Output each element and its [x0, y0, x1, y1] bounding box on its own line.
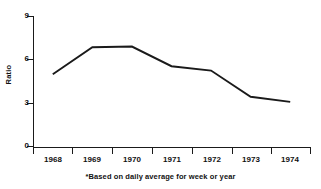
x-tick-mark-4	[192, 148, 193, 154]
x-tick-label-1971: 1971	[152, 156, 192, 164]
x-tick-mark-0	[33, 148, 34, 154]
x-tick-label-1968: 1968	[33, 156, 73, 164]
line-chart: Ratio 9 6 3 0 1968 1969 1970 1971 1972 1…	[0, 0, 321, 189]
x-tick-mark-1	[72, 148, 73, 154]
data-series-line	[53, 47, 290, 102]
y-tick-label-6: 6	[7, 55, 29, 63]
x-tick-label-1970: 1970	[112, 156, 152, 164]
x-tick-mark-7	[310, 148, 311, 154]
y-tick-label-9: 9	[7, 12, 29, 20]
x-axis-line	[33, 147, 311, 148]
x-tick-label-1973: 1973	[231, 156, 271, 164]
x-tick-mark-5	[232, 148, 233, 154]
y-axis-line	[33, 16, 34, 148]
x-tick-label-1974: 1974	[270, 156, 310, 164]
x-tick-label-1969: 1969	[72, 156, 112, 164]
x-tick-mark-2	[112, 148, 113, 154]
y-tick-label-3: 3	[7, 99, 29, 107]
chart-footnote: *Based on daily average for week or year	[0, 172, 321, 181]
x-tick-label-1972: 1972	[192, 156, 232, 164]
y-tick-label-0: 0	[7, 142, 29, 150]
x-tick-mark-6	[271, 148, 272, 154]
x-tick-mark-3	[152, 148, 153, 154]
